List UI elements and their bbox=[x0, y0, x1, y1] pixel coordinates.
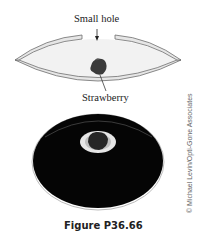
mirror-diagram bbox=[0, 0, 203, 236]
small-hole-label: Small hole bbox=[74, 13, 119, 24]
strawberry-label: Strawberry bbox=[82, 92, 129, 103]
photo-credit: © Michael Levin/Opti-Gone Associates bbox=[186, 93, 193, 213]
mirage-photo bbox=[32, 114, 164, 210]
figure-caption: Figure P36.66 bbox=[64, 220, 143, 231]
